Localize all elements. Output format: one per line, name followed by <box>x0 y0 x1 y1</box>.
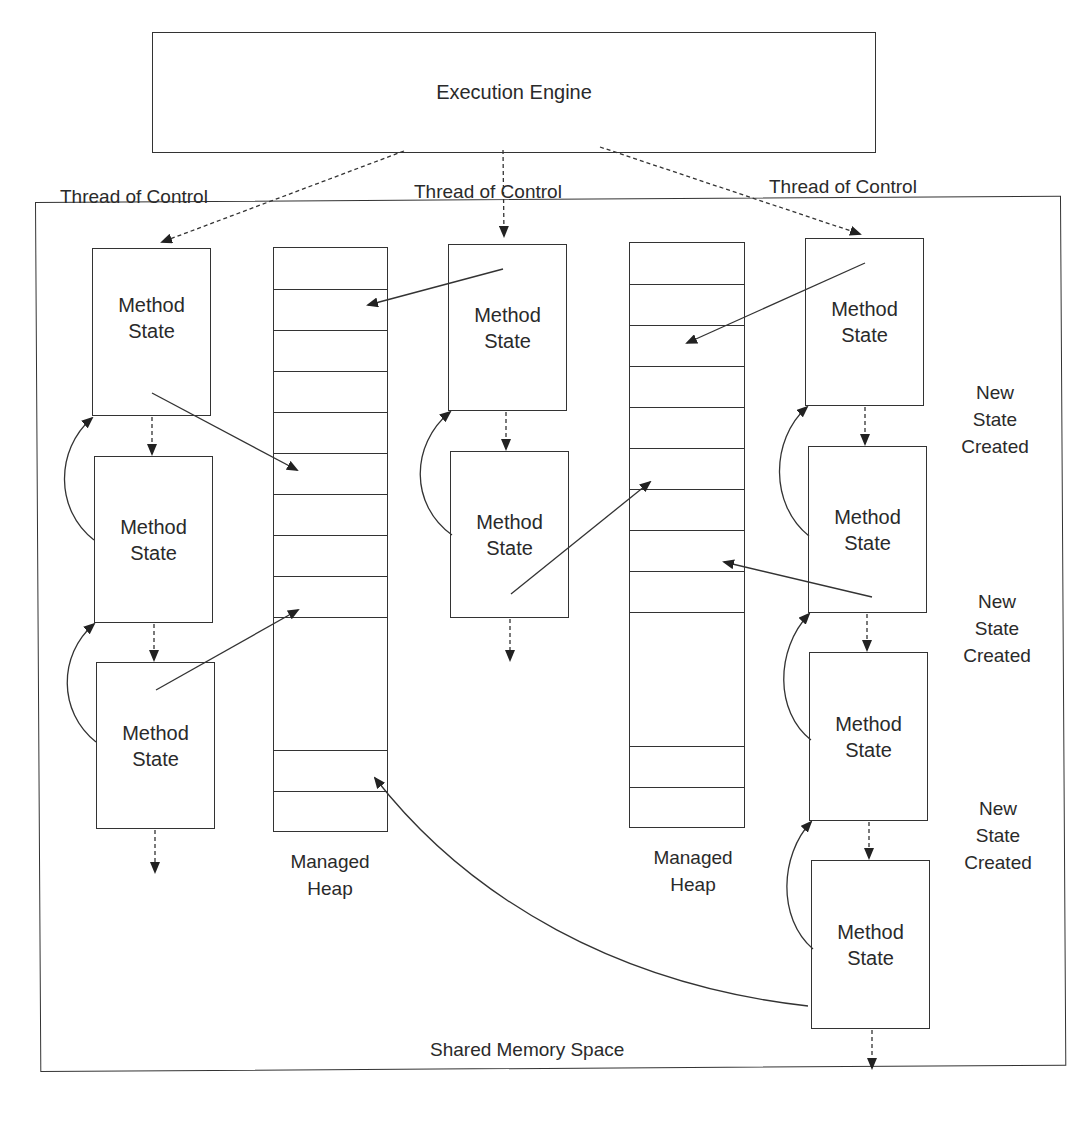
heap-label-line1: Managed <box>653 847 732 868</box>
note-line2: State <box>973 409 1017 430</box>
managed-heap-1 <box>273 247 388 832</box>
note-line3: Created <box>963 645 1031 666</box>
heap-cell <box>630 787 744 788</box>
heap-cell <box>630 612 744 613</box>
method-state-line1: Method <box>118 294 185 316</box>
method-state-t3-1: MethodState <box>805 238 924 406</box>
method-state-line2: State <box>844 532 891 554</box>
heap-label-line1: Managed <box>290 851 369 872</box>
method-state-line2: State <box>130 542 177 564</box>
execution-engine-box: Execution Engine <box>152 32 876 153</box>
thread-of-control-label-1: Thread of Control <box>60 183 208 210</box>
heap-cell <box>274 617 387 618</box>
method-state-line2: State <box>132 748 179 770</box>
heap-cell <box>274 453 387 454</box>
note-line1: New <box>978 591 1016 612</box>
method-state-line1: Method <box>835 713 902 735</box>
note-line3: Created <box>961 436 1029 457</box>
new-state-created-note-2: New State Created <box>947 588 1047 669</box>
note-line3: Created <box>964 852 1032 873</box>
method-state-line2: State <box>128 320 175 342</box>
method-state-line1: Method <box>120 516 187 538</box>
method-state-t1-1: MethodState <box>92 248 211 416</box>
method-state-t2-1: MethodState <box>448 244 567 411</box>
method-state-t3-3: MethodState <box>809 652 928 821</box>
method-state-line2: State <box>841 324 888 346</box>
shared-memory-space-label: Shared Memory Space <box>430 1036 624 1063</box>
method-state-t1-3: MethodState <box>96 662 215 829</box>
heap-cell <box>274 371 387 372</box>
note-line1: New <box>976 382 1014 403</box>
heap-cell <box>274 289 387 290</box>
method-state-line1: Method <box>837 921 904 943</box>
new-state-created-note-1: New State Created <box>945 379 1045 460</box>
method-state-line1: Method <box>474 304 541 326</box>
heap-cell <box>630 448 744 449</box>
heap-label-line2: Heap <box>670 874 715 895</box>
method-state-line1: Method <box>831 298 898 320</box>
execution-engine-label: Execution Engine <box>436 81 592 104</box>
new-state-created-note-3: New State Created <box>948 795 1048 876</box>
thread-of-control-label-3: Thread of Control <box>769 173 917 200</box>
heap-cell <box>630 530 744 531</box>
method-state-t1-2: MethodState <box>94 456 213 623</box>
method-state-line1: Method <box>476 511 543 533</box>
heap-cell <box>630 489 744 490</box>
heap-cell <box>630 325 744 326</box>
method-state-t3-4: MethodState <box>811 860 930 1029</box>
heap-cell <box>630 571 744 572</box>
method-state-t3-2: MethodState <box>808 446 927 613</box>
diagram-canvas: Execution Engine Thread of Control Threa… <box>0 0 1092 1125</box>
heap-cell <box>630 407 744 408</box>
heap-cell <box>630 366 744 367</box>
method-state-line1: Method <box>834 506 901 528</box>
heap-cell <box>630 284 744 285</box>
managed-heap-1-label: Managed Heap <box>270 848 390 902</box>
method-state-line2: State <box>845 739 892 761</box>
heap-cell <box>274 791 387 792</box>
note-line1: New <box>979 798 1017 819</box>
heap-cell <box>274 494 387 495</box>
method-state-line1: Method <box>122 722 189 744</box>
note-line2: State <box>975 618 1019 639</box>
heap-cell <box>274 412 387 413</box>
managed-heap-2 <box>629 242 745 828</box>
heap-cell <box>274 576 387 577</box>
heap-cell <box>274 535 387 536</box>
managed-heap-2-label: Managed Heap <box>633 844 753 898</box>
method-state-t2-2: MethodState <box>450 451 569 618</box>
heap-cell <box>274 330 387 331</box>
method-state-line2: State <box>486 537 533 559</box>
heap-label-line2: Heap <box>307 878 352 899</box>
note-line2: State <box>976 825 1020 846</box>
method-state-line2: State <box>484 330 531 352</box>
heap-cell <box>274 750 387 751</box>
heap-cell <box>630 746 744 747</box>
thread-of-control-label-2: Thread of Control <box>414 178 562 205</box>
method-state-line2: State <box>847 947 894 969</box>
